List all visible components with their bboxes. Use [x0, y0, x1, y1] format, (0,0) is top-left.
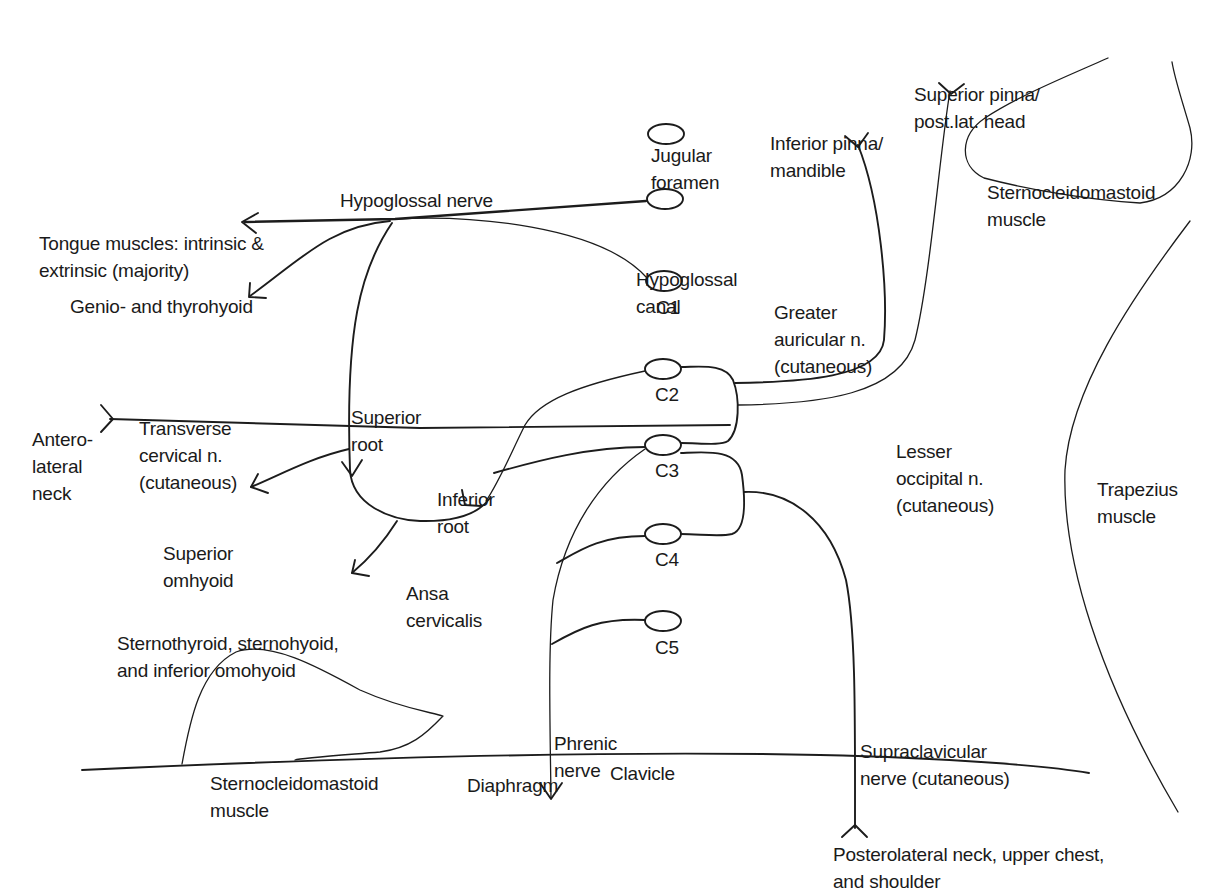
supraclavicular-line [744, 492, 855, 828]
sternocleidomastoid-upper-label: Sternocleidomastoidmuscle [987, 125, 1155, 287]
c2-label: C2 [655, 381, 679, 408]
c4-oval [645, 524, 681, 544]
superior-omohyoid-branch-line [251, 449, 349, 487]
c1-to-hypoglossal-line [395, 218, 647, 278]
infrahyoid-arrowhead [352, 560, 369, 576]
c3-label: C3 [655, 457, 679, 484]
superior-root-label: Superiorroot [351, 350, 421, 512]
phrenic-from-c5-line [552, 620, 645, 644]
c5-oval [645, 611, 681, 631]
inferior-pinna-label: Inferior pinna/mandible [770, 76, 883, 238]
trapezius-label: Trapeziusmuscle [1097, 422, 1178, 584]
phrenic-nerve-label: Phrenicnerve [554, 676, 617, 838]
c5-label: C5 [655, 634, 679, 661]
genio-thyrohyoid-label: Genio- and thyrohyoid [70, 293, 253, 320]
infrahyoid-branch-line [352, 521, 397, 573]
inferior-root-from-c2-line [486, 371, 645, 501]
diaphragm-label: Diaphragm [467, 772, 558, 799]
c3-oval [645, 435, 681, 455]
infrahyoid-muscles-label: Sternothyroid, sternohyoid,and inferior … [117, 576, 339, 738]
c3-c4-loop-line [681, 452, 744, 535]
greater-auricular-label: Greaterauricular n.(cutaneous) [774, 245, 872, 434]
c4-label: C4 [655, 546, 679, 573]
anterolateral-neck-label: Antero-lateralneck [32, 372, 93, 561]
c2-c3-loop-line [681, 367, 738, 444]
c1-label: C1 [656, 294, 680, 321]
posterolateral-target-label: Posterolateral neck, upper chest,and sho… [833, 787, 1104, 892]
geniohyoid-branch-line [250, 221, 390, 296]
inferior-root-from-c3-line [494, 447, 645, 473]
sternocleidomastoid-lower-label: Sternocleidomastoidmuscle [210, 716, 378, 878]
ansa-cervicalis-label: Ansacervicalis [406, 526, 482, 688]
lesser-occipital-label: Lesseroccipital n.(cutaneous) [896, 384, 994, 573]
hypoglossal-canal-label: Hypoglossalcanal [636, 212, 737, 374]
clavicle-label: Clavicle [610, 760, 675, 787]
hypoglossal-nerve-label: Hypoglossal nerve [340, 187, 493, 214]
